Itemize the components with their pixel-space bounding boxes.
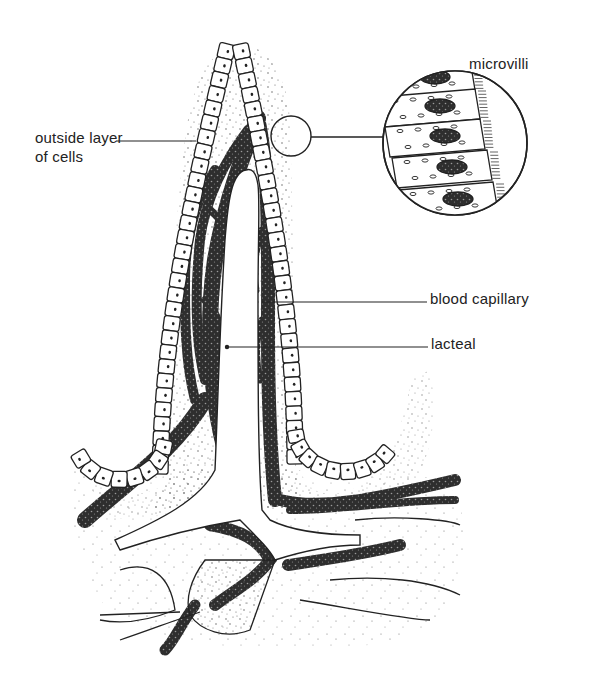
epithelial-cell [276, 289, 294, 305]
epithelial-cell [165, 301, 183, 318]
epithelial-cell [154, 416, 171, 431]
epithelial-cell [283, 362, 300, 378]
epithelial-cell [159, 344, 177, 360]
epithelial-cell [154, 402, 171, 417]
nucleus [443, 192, 473, 206]
epithelial-cell [325, 461, 343, 480]
epithelial-cell [274, 275, 292, 292]
epithelial-cell [284, 377, 301, 392]
nucleus [437, 160, 467, 174]
label-lacteal: lacteal [431, 334, 476, 353]
nucleus [425, 99, 455, 113]
magnified-inset [271, 60, 527, 220]
villus-diagram: outside layer of cells microvilli blood … [0, 0, 591, 687]
epithelial-cell [286, 406, 303, 421]
epithelial-cell [282, 347, 299, 363]
villus-illustration [0, 0, 591, 687]
epithelial-cell [278, 304, 296, 320]
nucleus [430, 129, 460, 143]
label-blood-capillary: blood capillary [430, 289, 529, 308]
epithelial-cell [157, 373, 174, 389]
label-line-2: of cells [35, 147, 123, 166]
label-microvilli: microvilli [469, 54, 529, 73]
epithelial-cell [161, 330, 179, 346]
epithelial-cell [279, 318, 296, 334]
label-outside-layer-of-cells: outside layer of cells [35, 128, 123, 166]
epithelial-cell [163, 315, 181, 331]
epithelial-cell [285, 391, 302, 406]
epithelial-cell [272, 260, 290, 277]
label-line-1: outside layer [35, 128, 123, 147]
epithelial-cell [155, 387, 172, 403]
epithelial-cell [158, 359, 175, 375]
